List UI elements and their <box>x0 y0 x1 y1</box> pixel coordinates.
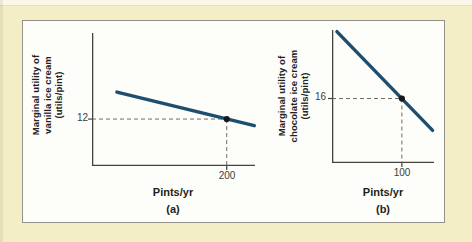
line-plot-vanilla <box>92 33 255 166</box>
line-plot-chocolate <box>332 30 434 163</box>
y-tick-label: 16 <box>298 91 326 102</box>
y-axis-label-line: Marginal utility of <box>30 20 42 170</box>
y-axis-label: Marginal utility of vanilla ice cream (u… <box>30 20 66 170</box>
y-axis-label-line: Marginal utility of <box>276 21 288 171</box>
x-tick-label: 200 <box>212 170 242 181</box>
scan-edge-top <box>0 0 472 6</box>
chart-vanilla: Marginal utility of vanilla ice cream (u… <box>30 28 265 220</box>
panel-label: (a) <box>123 203 223 215</box>
x-axis-label: Pints/yr <box>333 186 433 198</box>
textbook-figure: Marginal utility of vanilla ice cream (u… <box>0 0 472 242</box>
y-tick-label: 12 <box>60 112 88 123</box>
panel-label: (b) <box>333 203 433 215</box>
scan-edge-left <box>0 0 3 242</box>
y-axis-label-line: vanilla ice cream <box>42 20 54 170</box>
x-axis-label: Pints/yr <box>123 186 223 198</box>
x-tick-label: 100 <box>387 167 417 178</box>
y-axis-label-line: (utils/pint) <box>53 20 65 170</box>
chart-chocolate: Marginal utility of chocolate ice cream … <box>268 28 448 220</box>
